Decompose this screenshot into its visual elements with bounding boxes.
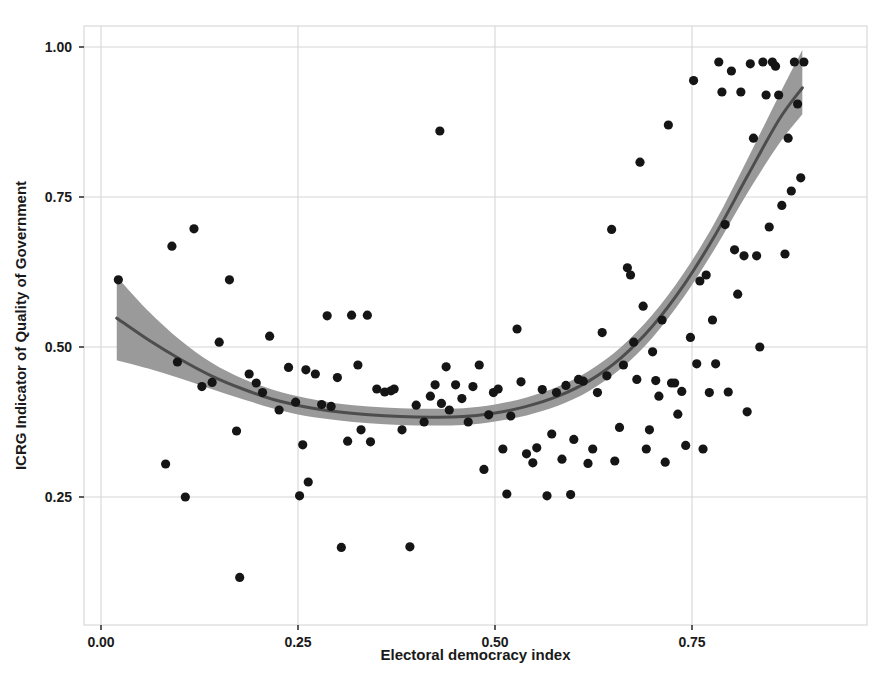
data-point [431,380,440,389]
data-point [689,76,698,85]
data-point [561,381,570,390]
data-point [484,410,493,419]
data-point [522,449,531,458]
scatter-plot-svg: 0.000.250.500.750.250.500.751.00 Elector… [0,0,893,682]
data-point [705,388,714,397]
data-point [347,311,356,320]
x-tick-label-3: 0.75 [678,634,705,650]
data-point [445,405,454,414]
data-point [645,425,654,434]
data-point [311,369,320,378]
data-point [566,490,575,499]
data-point [258,388,267,397]
data-point [743,407,752,416]
data-point [642,444,651,453]
data-point [615,423,624,432]
data-point [457,394,466,403]
data-point [692,359,701,368]
data-point [724,387,733,396]
data-point [648,347,657,356]
data-point [208,378,217,387]
data-point [538,385,547,394]
data-point [552,388,561,397]
data-point [702,270,711,279]
data-point [363,311,372,320]
data-point [749,134,758,143]
data-point [654,392,663,401]
data-point [639,302,648,311]
y-tick-label-1: 0.50 [45,339,72,355]
data-point [790,57,799,66]
data-point [252,378,261,387]
data-point [301,365,310,374]
data-point [412,401,421,410]
data-point [167,242,176,251]
data-point [298,440,307,449]
data-point [677,387,686,396]
data-point [730,245,739,254]
data-point [390,384,399,393]
data-point [235,573,244,582]
data-point [784,134,793,143]
data-point [291,398,300,407]
y-tick-label-2: 0.75 [45,189,72,205]
data-point [746,59,755,68]
data-point [780,249,789,258]
data-point [708,315,717,324]
y-tick-label-0: 0.25 [45,489,72,505]
data-point [588,444,597,453]
data-point [598,328,607,337]
data-point [698,444,707,453]
data-point [405,542,414,551]
data-point [284,363,293,372]
data-point [506,411,515,420]
data-point [419,417,428,426]
data-point [670,378,679,387]
data-point [265,332,274,341]
data-point [502,489,511,498]
data-point [161,459,170,468]
data-point [755,342,764,351]
data-point [771,62,780,71]
data-point [304,477,313,486]
data-point [607,225,616,234]
data-point [610,456,619,465]
data-point [657,315,666,324]
data-point [498,444,507,453]
data-point [189,224,198,233]
data-point [714,57,723,66]
data-point [765,222,774,231]
data-point [232,426,241,435]
data-point [579,377,588,386]
data-point [317,400,326,409]
data-point [245,369,254,378]
data-point [475,360,484,369]
data-point [464,417,473,426]
data-point [733,290,742,299]
data-point [651,376,660,385]
data-point [736,87,745,96]
data-point [629,338,638,347]
data-point [181,492,190,501]
data-point [661,458,670,467]
data-point [635,158,644,167]
data-point [197,382,206,391]
data-point [752,251,761,260]
data-point [787,186,796,195]
data-point [114,275,123,284]
data-point [343,437,352,446]
data-point [547,429,556,438]
data-point [353,360,362,369]
data-point [215,338,224,347]
data-point [516,377,525,386]
data-point [777,201,786,210]
data-point [173,357,182,366]
data-point [442,362,451,371]
data-point [356,425,365,434]
data-point [739,251,748,260]
data-point [528,458,537,467]
data-point [512,324,521,333]
x-tick-label-1: 0.25 [284,634,311,650]
data-point [681,441,690,450]
data-point [532,443,541,452]
